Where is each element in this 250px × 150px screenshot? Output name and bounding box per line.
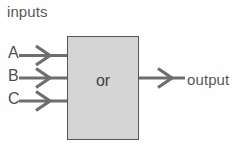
or-gate-box: or (67, 36, 139, 140)
output-wire (139, 69, 185, 88)
input-wire-b (19, 69, 68, 88)
input-wire-c (19, 92, 68, 111)
output-label: output (187, 72, 229, 87)
input-wire-a (19, 46, 68, 65)
or-gate-label: or (68, 73, 138, 89)
logic-gate-diagram: inputs A B C or output (0, 0, 250, 150)
